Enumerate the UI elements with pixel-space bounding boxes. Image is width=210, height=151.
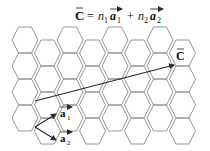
hexagonal-lattice-diagram: C = n 1 a 1 + n 2 a 2 C a 1 a 2 xyxy=(0,0,210,151)
graphene-lattice xyxy=(12,27,196,144)
hexagon-cell xyxy=(125,92,151,118)
hexagon-cell xyxy=(80,118,106,144)
label-a2-sub: 2 xyxy=(67,139,71,147)
hexagon-cell xyxy=(170,92,196,118)
hexagon-cell xyxy=(170,118,196,144)
hexagon-cell xyxy=(147,27,173,53)
eq-n1-sub: 1 xyxy=(104,16,108,25)
hexagon-cell xyxy=(35,118,61,144)
a1-label: a 1 xyxy=(60,107,72,122)
hexagon-cell xyxy=(35,40,61,66)
a2-label: a 2 xyxy=(60,132,72,147)
hexagon-cell xyxy=(80,92,106,118)
chiral-vector-equation: C = n 1 a 1 + n 2 a 2 xyxy=(75,8,163,25)
eq-c: C xyxy=(75,8,84,23)
hexagon-cell xyxy=(12,53,38,79)
hexagon-cell xyxy=(147,105,173,131)
hexagon-cell xyxy=(102,27,128,53)
hexagon-cell xyxy=(125,66,151,92)
label-a2: a xyxy=(60,132,66,144)
eq-equals: = xyxy=(87,9,94,23)
eq-a2-sub: 2 xyxy=(157,16,161,25)
label-c: C xyxy=(176,49,185,63)
eq-a1: a xyxy=(110,9,116,23)
hexagon-cell xyxy=(170,66,196,92)
hexagon-cell xyxy=(125,40,151,66)
eq-a1-sub: 1 xyxy=(117,16,121,25)
label-a1: a xyxy=(60,107,66,119)
eq-plus: + xyxy=(127,9,134,23)
hexagon-cell xyxy=(102,105,128,131)
hexagon-cell xyxy=(57,27,83,53)
eq-a2: a xyxy=(150,9,156,23)
chiral-vector-label: C xyxy=(176,49,185,63)
hexagon-cell xyxy=(147,79,173,105)
label-a1-sub: 1 xyxy=(67,114,71,122)
hexagon-cell xyxy=(57,53,83,79)
hexagon-cell xyxy=(12,105,38,131)
hexagon-cell xyxy=(80,40,106,66)
hexagon-cell xyxy=(35,66,61,92)
hexagon-cell xyxy=(125,118,151,144)
hexagon-cell xyxy=(12,79,38,105)
hexagon-cell xyxy=(12,27,38,53)
eq-n2-sub: 2 xyxy=(144,16,148,25)
unit-vector-a1 xyxy=(35,114,56,127)
hexagon-cell xyxy=(102,53,128,79)
